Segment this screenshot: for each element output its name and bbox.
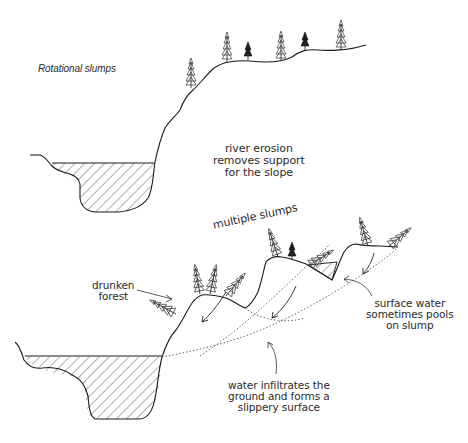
top-trees: [186, 20, 346, 88]
diagram-title: Rotational slumps: [38, 63, 116, 74]
bottom-slope-profile: [15, 244, 398, 419]
label-pointer-arrows: [137, 276, 372, 374]
water-infiltrates-label: water infiltrates the ground and forms a…: [228, 380, 330, 413]
slip-surfaces: [162, 244, 398, 357]
drunken-forest-label: drunken forest: [92, 280, 134, 302]
river-erosion-caption: river erosion removes support for the sl…: [213, 143, 305, 179]
surface-water-label: surface water sometimes pools on slump: [366, 298, 454, 331]
slump-movement-arrows: [202, 253, 374, 322]
rotational-slumps-diagram: Rotational slumps river erosion removes …: [0, 0, 468, 443]
